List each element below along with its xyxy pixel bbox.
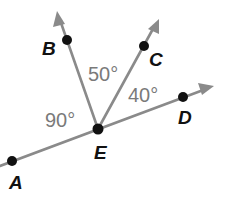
point-C <box>139 41 149 51</box>
label-E: E <box>94 142 108 163</box>
label-C: C <box>149 49 163 70</box>
angle-label-CED: 40° <box>128 84 158 106</box>
label-D: D <box>178 107 192 128</box>
angle-label-BEC: 50° <box>88 63 118 85</box>
label-A: A <box>8 172 23 193</box>
point-B <box>62 35 72 45</box>
angle-diagram: A B C D E 90° 50° 40° <box>0 0 227 204</box>
arrowhead-C-icon <box>148 19 159 34</box>
arrowhead-D-icon <box>198 83 214 95</box>
point-D <box>178 92 188 102</box>
label-B: B <box>42 38 56 59</box>
arrowhead-B-icon <box>53 11 65 27</box>
angle-label-AEB: 90° <box>45 109 75 131</box>
point-E <box>93 124 104 135</box>
point-A <box>7 156 17 166</box>
